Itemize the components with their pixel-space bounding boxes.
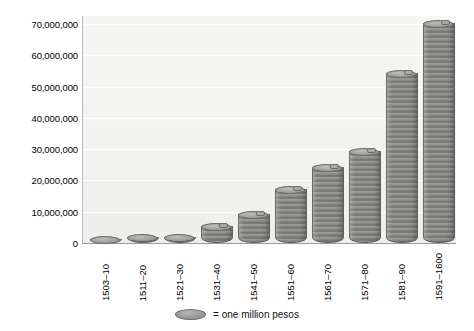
bar-body — [275, 189, 307, 243]
x-axis-tick-label: 1561–70 — [322, 264, 333, 301]
bar — [90, 240, 120, 243]
bar-top-notch — [330, 164, 339, 169]
coin-disc-icon — [175, 309, 206, 320]
x-axis-tick-label: 1591–1600 — [433, 253, 444, 301]
bar-body — [423, 23, 455, 243]
bar — [127, 238, 157, 243]
x-axis-tick-label: 1571–80 — [359, 264, 370, 301]
gridline — [82, 24, 456, 25]
x-axis-tick-label: 1521–30 — [174, 264, 185, 301]
bar — [238, 215, 268, 243]
x-axis-tick-label: 1551–60 — [285, 264, 296, 301]
x-axis-tick-label: 1581–90 — [396, 264, 407, 301]
y-axis-tick-label: 50,000,000 — [0, 81, 78, 92]
bar — [312, 168, 342, 243]
bar-body — [312, 167, 344, 243]
bar-top-notch — [219, 223, 228, 228]
y-axis-tick-label: 40,000,000 — [0, 112, 78, 123]
x-axis-tick-label: 1541–50 — [248, 264, 259, 301]
y-axis-tick-label: 70,000,000 — [0, 19, 78, 30]
bar — [349, 152, 379, 243]
gridline — [82, 55, 456, 56]
x-axis-tick-label: 1503–10 — [100, 264, 111, 301]
bar-top-notch — [441, 20, 450, 25]
bar — [164, 238, 194, 243]
chart-figure: 010,000,00020,000,00030,000,00040,000,00… — [0, 0, 474, 331]
bar-top-notch — [256, 211, 265, 216]
bar-body — [386, 73, 418, 243]
bar — [423, 24, 453, 243]
x-axis-tick-label: 1531–40 — [211, 264, 222, 301]
legend-label: = one million pesos — [213, 309, 299, 320]
chart-legend: = one million pesos — [0, 303, 474, 325]
bar-top-disc — [90, 236, 120, 244]
y-axis-tick-label: 20,000,000 — [0, 175, 78, 186]
bar — [275, 190, 305, 243]
y-axis-tick-label: 10,000,000 — [0, 206, 78, 217]
bar — [386, 74, 416, 243]
x-axis: 1503–101511–201521–301531–401541–501551–… — [0, 247, 474, 305]
bar-top-notch — [293, 186, 302, 191]
bar-top-notch — [404, 70, 413, 75]
y-axis-line — [82, 16, 83, 244]
bar — [201, 227, 231, 243]
y-axis-tick-label: 30,000,000 — [0, 144, 78, 155]
x-axis-baseline — [82, 243, 456, 244]
bar-top-notch — [367, 148, 376, 153]
y-axis-tick-label: 60,000,000 — [0, 50, 78, 61]
x-axis-tick-label: 1511–20 — [137, 265, 148, 301]
bar-body — [349, 151, 381, 243]
